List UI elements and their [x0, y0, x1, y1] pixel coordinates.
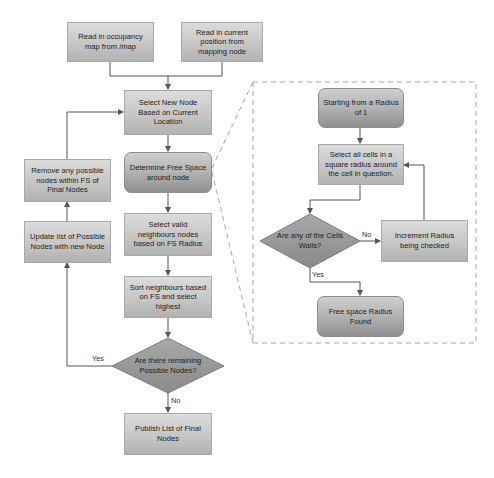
no-label: No	[171, 396, 180, 405]
callout-line-bottom	[212, 172, 253, 343]
increment-radius-node: Increment Radius being checked	[381, 220, 468, 262]
select-valid-neighbours-node: Select valid neighbours nodes based on F…	[124, 213, 212, 256]
update-list-node: Update list of Possible Nodes with new N…	[24, 221, 111, 263]
remove-nodes-node: Remove any possible nodes within FS of F…	[24, 159, 111, 202]
remaining-decision-label: Are there remaining Possible Nodes?	[122, 352, 214, 380]
walls-yes-label: Yes	[312, 270, 324, 279]
publish-node: Publish List of Final Nodes	[124, 413, 212, 455]
radius-found-node: Free space Radius Found	[317, 296, 404, 337]
connector-increment-loop	[404, 165, 424, 220]
select-new-node-node: Select New Node Based on Current Locatio…	[124, 90, 212, 135]
read-position-node: Read in current position from mapping no…	[181, 22, 263, 62]
read-map-node: Read in occupancy map from /map	[67, 22, 154, 62]
connector-yes-loop	[67, 263, 112, 366]
connector-read-position	[168, 62, 222, 76]
yes-label: Yes	[92, 354, 104, 363]
connector-cells-to-walls	[310, 185, 360, 213]
flowchart-canvas: Read in occupancy map from /map Read in …	[0, 0, 494, 478]
sort-neighbours-node: Sort neighbours based on FS and select h…	[124, 276, 212, 318]
start-radius-node: Starting from a Radius of 1	[318, 88, 404, 128]
select-cells-node: Select all cells in a square radius arou…	[318, 144, 404, 185]
connector-remove-to-select	[67, 112, 123, 159]
connector-read-map	[110, 62, 168, 76]
callout-line-top	[212, 82, 253, 168]
walls-no-label: No	[362, 230, 371, 239]
walls-decision-label: Are any of the Cells Walls?	[272, 229, 348, 253]
determine-free-space-node: Determine Free Space around node	[124, 152, 212, 193]
